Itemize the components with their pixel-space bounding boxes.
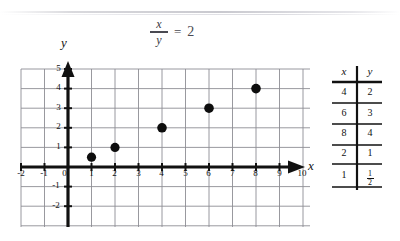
worksheet-figure: x y = 2 [0,0,400,241]
data-point [110,143,119,152]
y-axis-title: y [61,35,67,51]
x-tick-label-origin: 0 [58,168,71,178]
x-tick-label: 2 [108,168,121,178]
x-tick-label: 6 [202,168,215,178]
x-tick-label: -2 [13,168,29,178]
table-header-y: y [360,65,380,77]
coordinate-plane: y x -2 -1 0 1 2 3 4 5 6 7 8 9 10 5 4 3 2… [0,55,320,235]
title-fraction-numerator: x [152,18,165,31]
table-cell-y: 4 [360,127,380,138]
table-cell-x: 2 [334,147,354,158]
x-tick-label: 3 [132,168,145,178]
scan-artifact-line-secondary [0,14,400,15]
table-cell-x: 8 [334,127,354,138]
y-tick-label: -1 [48,180,64,190]
fraction-numerator: 1 [368,170,372,178]
fraction-one-half: 1 2 [367,170,374,187]
title-value: 2 [187,24,194,40]
table-cell-y: 3 [360,107,380,118]
x-tick-label: 1 [85,168,98,178]
data-point [87,153,96,162]
table-cell-y: 2 [360,86,380,97]
y-tick-label: 1 [52,141,65,151]
x-tick-label: 5 [179,168,192,178]
fraction-denominator: 2 [368,179,372,187]
title-equals-sign: = [174,24,181,40]
x-tick-label: 4 [155,168,168,178]
table-header-x: x [334,65,354,77]
table-cell-x: 4 [334,86,354,97]
data-points [87,84,261,162]
equation-title: x y = 2 [150,18,194,46]
data-point [204,103,214,113]
x-tick-label: 8 [249,168,262,178]
x-tick-label: 10 [294,168,310,178]
title-fraction-denominator: y [152,33,165,46]
y-tick-label: 3 [52,102,65,112]
table-cell-y: 1 [360,147,380,158]
table-cell-x: 1 [334,169,354,180]
y-tick-label: 2 [52,121,65,131]
table-cell-x: 6 [334,107,354,118]
scan-artifact-line [0,11,400,13]
table-cell-y-fraction: 1 2 [360,167,380,187]
data-point [157,123,167,133]
y-tick-label: 5 [52,63,65,73]
x-tick-label: -1 [36,168,52,178]
data-point [251,84,261,94]
y-tick-label: 4 [52,82,65,92]
title-fraction: x y [150,18,168,46]
y-tick-label: -2 [48,200,64,210]
x-tick-label: 7 [226,168,239,178]
x-tick-label: 9 [273,168,286,178]
